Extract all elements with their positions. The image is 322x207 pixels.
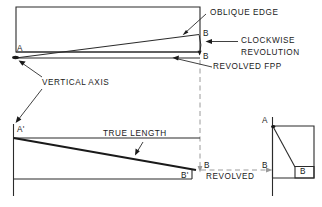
true-length-line: [14, 138, 197, 170]
point-label-b-side-left: B: [262, 161, 268, 170]
top-view-rectangle: [16, 7, 200, 52]
leader-true-length: [135, 142, 143, 155]
callout-true-length: TRUE LENGTH: [103, 129, 167, 138]
callout-oblique-edge: OBLIQUE EDGE: [210, 8, 278, 17]
point-label-b-oblique: B: [203, 29, 209, 38]
point-label-b-side-box: B: [300, 167, 306, 176]
drawing-canvas: [0, 0, 322, 207]
leader-vertical-axis-lower: [16, 89, 42, 123]
leader-vertical-axis-upper: [19, 61, 42, 77]
point-label-a-front: A': [17, 125, 24, 134]
point-label-b-dash: B: [204, 161, 210, 170]
side-view: [271, 117, 314, 196]
callout-vertical-axis: VERTICAL AXIS: [42, 78, 109, 87]
callout-revolved: REVOLVED: [206, 172, 254, 181]
point-label-b-front: B': [181, 171, 188, 180]
callout-revolution: REVOLUTION: [241, 48, 300, 57]
point-label-b-revolved: B: [203, 52, 209, 61]
point-label-a-side: A: [262, 116, 268, 125]
projection-dashed-vertical: [198, 60, 203, 173]
callout-revolved-fpp: REVOLVED FPP: [213, 62, 282, 71]
oblique-edge-line: [16, 35, 200, 59]
point-label-a-top: A: [17, 44, 23, 53]
technical-drawing: OBLIQUE EDGE CLOCKWISE REVOLUTION REVOLV…: [0, 0, 322, 207]
callout-clockwise: CLOCKWISE: [241, 36, 295, 45]
leader-clockwise-revolution: [206, 39, 239, 44]
vertical-axis-point-marker: [12, 56, 19, 59]
